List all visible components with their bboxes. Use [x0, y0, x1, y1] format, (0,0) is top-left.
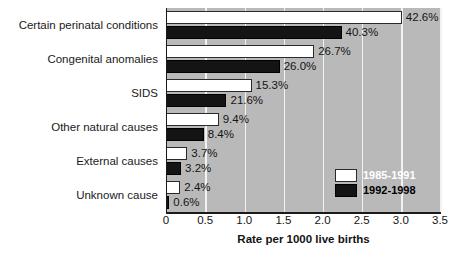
category-label: SIDS: [0, 87, 158, 100]
bar-period-b: [167, 60, 280, 73]
legend-label: 1985-1991: [363, 169, 416, 182]
legend-item: 1985-1991: [335, 168, 431, 182]
x-tick-label: 2.5: [354, 214, 370, 226]
bar-value-label: 3.7%: [191, 147, 217, 160]
bar-period-b: [167, 26, 342, 39]
bar-chart: Certain perinatal conditionsCongenital a…: [0, 0, 455, 261]
x-tick-label: 3.0: [393, 214, 409, 226]
bar-period-b: [167, 94, 226, 107]
bar-value-label: 42.6%: [406, 11, 439, 24]
bar-value-label: 40.3%: [346, 26, 379, 39]
x-tick-label: 3.5: [432, 214, 448, 226]
legend-item: 1992-1998: [335, 183, 431, 197]
bar-period-a: [167, 113, 219, 126]
bar-value-label: 3.2%: [185, 162, 211, 175]
category-label: External causes: [0, 155, 158, 168]
bar-value-label: 2.4%: [184, 181, 210, 194]
bar-value-label: 15.3%: [256, 79, 289, 92]
x-tick-label: 0.5: [197, 214, 213, 226]
category-label: Other natural causes: [0, 121, 158, 134]
gridline: [440, 8, 442, 212]
plot-area: 42.6%40.3%26.7%26.0%15.3%21.6%9.4%8.4%3.…: [166, 8, 441, 212]
legend-label: 1992-1998: [363, 184, 416, 197]
category-label: Unknown cause: [0, 189, 158, 202]
x-tick-label: 1.5: [275, 214, 291, 226]
category-label: Certain perinatal conditions: [0, 19, 158, 32]
bar-period-a: [167, 181, 180, 194]
bar-value-label: 9.4%: [223, 113, 249, 126]
bar-value-label: 8.4%: [208, 128, 234, 141]
x-tick-label: 1.0: [236, 214, 252, 226]
x-tick-label: 0: [163, 214, 169, 226]
bar-period-b: [167, 196, 169, 209]
bar-period-a: [167, 147, 187, 160]
bar-period-a: [167, 45, 314, 58]
bar-value-label: 26.7%: [318, 45, 351, 58]
category-label: Congenital anomalies: [0, 53, 158, 66]
bar-period-b: [167, 128, 204, 141]
bar-period-b: [167, 162, 181, 175]
x-axis-title: Rate per 1000 live births: [166, 233, 441, 245]
x-axis-tick-labels: 00.51.01.52.02.53.03.5: [0, 214, 455, 230]
bar-period-a: [167, 11, 402, 24]
category-axis: Certain perinatal conditionsCongenital a…: [0, 8, 162, 212]
bar-period-a: [167, 79, 252, 92]
x-tick-label: 2.0: [315, 214, 331, 226]
legend-swatch-white: [335, 169, 357, 182]
bar-value-label: 0.6%: [173, 196, 199, 209]
legend: 1985-19911992-1998: [335, 168, 431, 198]
bar-value-label: 21.6%: [230, 94, 263, 107]
legend-swatch-black: [335, 184, 357, 197]
bar-value-label: 26.0%: [284, 60, 317, 73]
